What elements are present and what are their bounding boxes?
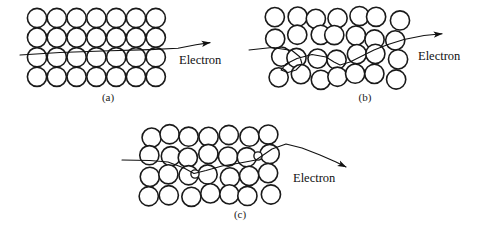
lattice-atom (126, 28, 145, 47)
lattice-atom (390, 11, 409, 30)
lattice-atom (107, 28, 126, 47)
panel-b: Electron(b) (249, 6, 461, 104)
lattice-a (27, 8, 165, 86)
lattice-atom (47, 67, 66, 86)
lattice-atom (146, 8, 165, 27)
lattice-b (265, 6, 409, 89)
lattice-atom (346, 26, 365, 45)
lattice-atom (365, 64, 384, 83)
lattice-atom (347, 45, 366, 64)
lattice-atom (67, 67, 86, 86)
panel-caption-c: (c) (234, 208, 247, 221)
lattice-atom (219, 125, 238, 144)
lattice-atom (27, 28, 46, 47)
lattice-atom (107, 67, 126, 86)
lattice-atom (140, 146, 159, 165)
panel-c: Electron(c) (122, 125, 346, 221)
lattice-atom (325, 25, 344, 44)
impurity-atom (191, 170, 199, 178)
electron-scattering-figure: Electron(a)Electron(b)Electron(c) (0, 0, 478, 234)
lattice-atom (308, 49, 327, 68)
panel-a: Electron(a) (20, 8, 222, 104)
panel-caption-b: (b) (359, 91, 372, 104)
lattice-atom (387, 70, 406, 89)
lattice-atom (107, 8, 126, 27)
lattice-atom (87, 28, 106, 47)
lattice-atom (199, 144, 218, 163)
panels-group: Electron(a)Electron(b)Electron(c) (20, 6, 461, 221)
lattice-atom (142, 128, 161, 147)
lattice-atom (87, 8, 106, 27)
lattice-atom (261, 185, 280, 204)
lattice-atom (140, 167, 159, 186)
figure-canvas: Electron(a)Electron(b)Electron(c) (0, 0, 478, 234)
lattice-atom (178, 148, 197, 167)
lattice-atom (27, 67, 46, 86)
lattice-atom (146, 67, 165, 86)
lattice-atom (146, 48, 165, 67)
lattice-atom (67, 28, 86, 47)
lattice-atom (328, 9, 347, 28)
lattice-atom (67, 8, 86, 27)
lattice-c (139, 125, 280, 207)
lattice-atom (291, 65, 310, 84)
lattice-atom (87, 48, 106, 67)
lattice-atom (288, 25, 307, 44)
lattice-atom (388, 50, 407, 69)
lattice-atom (259, 125, 278, 144)
lattice-atom (201, 184, 220, 203)
lattice-atom (159, 186, 178, 205)
lattice-atom (67, 48, 86, 67)
panel-caption-a: (a) (102, 91, 115, 104)
lattice-atom (160, 125, 179, 144)
lattice-atom (126, 67, 145, 86)
lattice-atom (269, 68, 288, 87)
lattice-atom (220, 185, 239, 204)
lattice-atom (27, 8, 46, 27)
lattice-atom (159, 165, 178, 184)
lattice-atom (47, 8, 66, 27)
lattice-atom (27, 48, 46, 67)
lattice-atom (146, 28, 165, 47)
lattice-atom (258, 164, 277, 183)
lattice-atom (240, 127, 259, 146)
lattice-atom (240, 166, 259, 185)
lattice-atom (126, 8, 145, 27)
lattice-atom (288, 7, 307, 26)
electron-label-c: Electron (293, 171, 336, 185)
lattice-atom (328, 67, 347, 86)
lattice-atom (139, 187, 158, 206)
electron-label-b: Electron (418, 49, 461, 63)
lattice-atom (346, 64, 365, 83)
lattice-atom (47, 28, 66, 47)
lattice-atom (47, 48, 66, 67)
lattice-atom (182, 187, 201, 206)
lattice-atom (266, 29, 285, 48)
lattice-atom (87, 67, 106, 86)
lattice-atom (179, 127, 198, 146)
lattice-atom (218, 147, 237, 166)
lattice-atom (367, 7, 386, 26)
lattice-atom (265, 8, 284, 27)
lattice-atom (238, 186, 257, 205)
electron-label-a: Electron (179, 53, 222, 67)
